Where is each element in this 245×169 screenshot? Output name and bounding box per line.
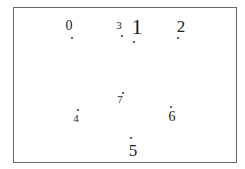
point-dot-5 (130, 137, 132, 139)
point-label-5: 5 (129, 142, 138, 159)
point-label-2: 2 (177, 18, 186, 35)
point-label-4: 4 (73, 113, 79, 124)
point-dot-6 (170, 106, 172, 108)
point-dot-2 (177, 37, 179, 39)
point-dot-1 (133, 41, 135, 43)
diagram-frame (13, 7, 237, 163)
point-dot-0 (71, 37, 73, 39)
point-dot-7 (122, 92, 124, 94)
point-label-7: 7 (117, 94, 123, 105)
point-label-3: 3 (116, 20, 122, 31)
point-label-0: 0 (66, 19, 73, 33)
point-dot-4 (77, 109, 79, 111)
point-dot-3 (121, 35, 123, 37)
point-label-6: 6 (169, 110, 176, 124)
point-label-1: 1 (132, 16, 143, 38)
